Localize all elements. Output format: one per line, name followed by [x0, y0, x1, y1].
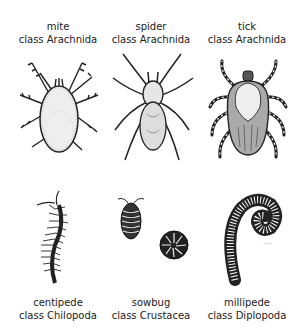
millipede-class-name: class Diplopoda — [197, 310, 297, 323]
spider-class-name: class Arachnida — [101, 34, 201, 47]
centipede-illustration — [25, 185, 85, 285]
mite-label: mite class Arachnida — [8, 21, 108, 46]
sowbug-illustration — [112, 195, 192, 275]
tick-label: tick class Arachnida — [197, 21, 297, 46]
mite-common-name: mite — [8, 21, 108, 34]
tick-class-name: class Arachnida — [197, 34, 297, 47]
mite-illustration — [10, 55, 105, 165]
spider-common-name: spider — [101, 21, 201, 34]
svg-text:~~~: ~~~ — [173, 147, 181, 151]
svg-text:~~~: ~~~ — [263, 242, 272, 246]
sowbug-label: sowbug class Crustacea — [101, 297, 201, 322]
sowbug-class-name: class Crustacea — [101, 310, 201, 323]
mite-class-name: class Arachnida — [8, 34, 108, 47]
sowbug-common-name: sowbug — [101, 297, 201, 310]
centipede-class-name: class Chilopoda — [8, 310, 108, 323]
millipede-illustration: ~~~ — [215, 190, 295, 290]
millipede-common-name: millipede — [197, 297, 297, 310]
centipede-common-name: centipede — [8, 297, 108, 310]
spider-label: spider class Arachnida — [101, 21, 201, 46]
millipede-label: millipede class Diplopoda — [197, 297, 297, 322]
tick-common-name: tick — [197, 21, 297, 34]
tick-illustration — [200, 55, 300, 170]
spider-illustration: ~~~ — [105, 50, 200, 165]
centipede-label: centipede class Chilopoda — [8, 297, 108, 322]
